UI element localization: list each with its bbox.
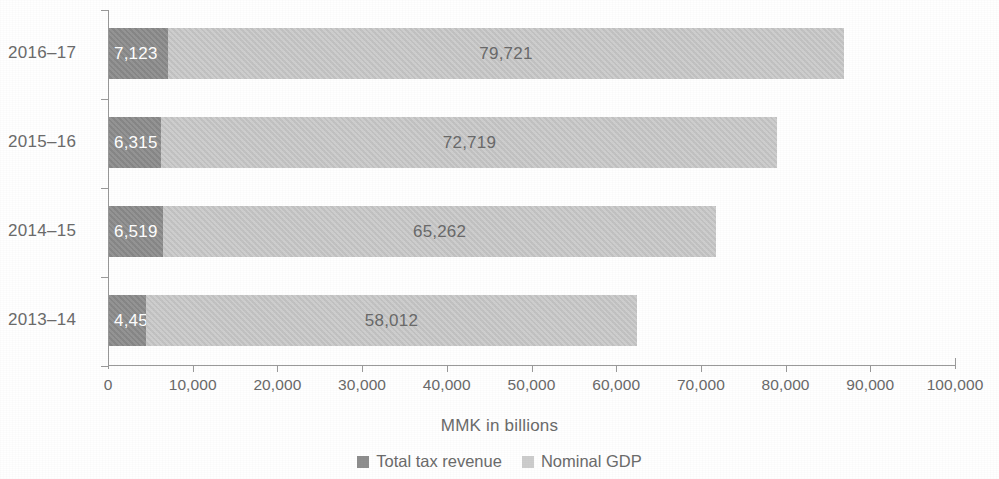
bar-segment-total-tax-revenue: 6,315 — [108, 117, 161, 168]
x-axis-tick — [786, 365, 787, 372]
bar-segment-nominal-gdp: 58,012 — [146, 295, 637, 346]
bar-value-label: 6,315 — [114, 133, 158, 153]
bar-row: 6,31572,719 — [0, 117, 999, 168]
legend-label: Total tax revenue — [376, 452, 502, 471]
legend-swatch-icon — [522, 456, 534, 468]
y-axis-tick — [101, 277, 108, 278]
chart-legend: Total tax revenueNominal GDP — [0, 452, 999, 471]
x-axis-tick-label: 60,000 — [592, 376, 640, 394]
legend-label: Nominal GDP — [541, 452, 642, 471]
bar-segment-total-tax-revenue: 6,519 — [108, 206, 163, 257]
legend-item[interactable]: Total tax revenue — [357, 452, 502, 471]
bar-segment-nominal-gdp: 79,721 — [168, 28, 843, 79]
bar-value-label: 7,123 — [114, 44, 158, 64]
y-axis-tick — [101, 99, 108, 100]
x-axis-tick — [277, 365, 278, 372]
bar-row: 6,51965,262 — [0, 206, 999, 257]
bar-value-label: 79,721 — [479, 44, 532, 64]
bar-row: 7,12379,721 — [0, 28, 999, 79]
bar-segment-total-tax-revenue: 4,459 — [108, 295, 146, 346]
x-axis-tick-label: 30,000 — [338, 376, 386, 394]
y-axis-line — [108, 10, 109, 366]
x-axis-tick-label: 0 — [104, 376, 113, 394]
bar-segment-nominal-gdp: 72,719 — [161, 117, 777, 168]
x-axis-tick — [362, 365, 363, 372]
bar-value-label: 58,012 — [365, 311, 418, 331]
bar-value-label: 65,262 — [413, 222, 466, 242]
x-axis-tick-label: 80,000 — [762, 376, 810, 394]
bar-segment-nominal-gdp: 65,262 — [163, 206, 716, 257]
x-axis-tick-label: 10,000 — [169, 376, 217, 394]
bar-segment-total-tax-revenue: 7,123 — [108, 28, 168, 79]
y-axis-tick — [101, 10, 108, 11]
x-axis-tick-label: 20,000 — [253, 376, 301, 394]
legend-swatch-icon — [357, 456, 369, 468]
bar-row: 4,45958,012 — [0, 295, 999, 346]
x-axis-tick — [870, 365, 871, 372]
x-axis-tick-label: 90,000 — [846, 376, 894, 394]
x-axis-tick-label: 100,000 — [927, 376, 984, 394]
stacked-bar-chart: 2016–172015–162014–152013–14 7,12379,721… — [0, 0, 999, 479]
x-axis-tick-label: 50,000 — [507, 376, 555, 394]
x-axis-tick — [701, 365, 702, 372]
x-axis-tick — [108, 358, 109, 369]
bar-value-label: 72,719 — [443, 133, 496, 153]
bar-value-label: 6,519 — [114, 222, 158, 242]
x-axis-tick — [447, 365, 448, 372]
x-axis-tick-label: 40,000 — [423, 376, 471, 394]
x-axis-tick — [616, 365, 617, 372]
x-axis-tick — [193, 365, 194, 372]
x-axis-tick — [532, 365, 533, 372]
legend-item[interactable]: Nominal GDP — [522, 452, 642, 471]
y-axis-tick — [101, 188, 108, 189]
x-axis-tick — [955, 358, 956, 369]
x-axis-title: MMK in billions — [0, 416, 999, 436]
y-axis-tick — [101, 366, 108, 367]
x-axis-tick-label: 70,000 — [677, 376, 725, 394]
